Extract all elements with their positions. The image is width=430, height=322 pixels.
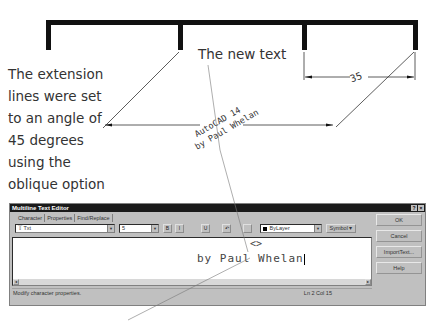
status-message: Modify character properties. bbox=[13, 290, 81, 296]
editor-line-1: <> bbox=[250, 238, 262, 249]
ok-button[interactable]: OK bbox=[376, 214, 422, 226]
help-question-icon[interactable]: ? bbox=[411, 205, 417, 211]
font-value: Txt bbox=[23, 225, 31, 231]
caption-line: oblique option bbox=[8, 173, 138, 195]
scroll-left-icon[interactable]: ◂ bbox=[13, 279, 19, 285]
text-edit-area[interactable]: <> by Paul Whelan ◂ ▸ bbox=[12, 237, 372, 286]
multiline-text-editor-dialog: Multiline Text Editor ? × Character Prop… bbox=[9, 203, 426, 306]
tab-find-replace[interactable]: Find/Replace bbox=[75, 214, 112, 222]
bold-button[interactable]: B bbox=[163, 224, 172, 233]
caption-line: 45 degrees bbox=[8, 129, 138, 151]
chevron-down-icon[interactable]: ▼ bbox=[314, 225, 321, 232]
scroll-right-icon[interactable]: ▸ bbox=[365, 279, 371, 285]
dialog-buttons: OK Cancel ImportText... Help bbox=[376, 214, 422, 278]
stack-button[interactable] bbox=[243, 224, 252, 233]
help-button[interactable]: Help bbox=[376, 262, 422, 274]
text-height-select[interactable]: 5 ▼ bbox=[119, 224, 159, 233]
caption-line: to an angle of bbox=[8, 107, 138, 129]
close-icon[interactable]: × bbox=[418, 205, 424, 211]
cursor-position: Ln 2 Col 15 bbox=[304, 289, 332, 297]
caption-line: using the bbox=[8, 151, 138, 173]
figure-caption: The extension lines were set to an angle… bbox=[8, 63, 138, 195]
horizontal-scrollbar[interactable]: ◂ ▸ bbox=[13, 279, 371, 285]
callout-label: The new text bbox=[198, 46, 286, 62]
chevron-down-icon: ▾ bbox=[349, 225, 352, 231]
truetype-icon: 𝕋 bbox=[18, 225, 22, 231]
color-value: ByLayer bbox=[270, 225, 290, 231]
tab-character[interactable]: Character bbox=[16, 214, 45, 222]
undo-button[interactable]: ↶ bbox=[222, 224, 231, 233]
font-select[interactable]: 𝕋 Txt ▼ bbox=[15, 224, 115, 233]
italic-button[interactable]: I bbox=[175, 224, 184, 233]
chevron-down-icon[interactable]: ▼ bbox=[107, 225, 114, 232]
color-swatch bbox=[263, 227, 267, 231]
dimension-35-label: 35 bbox=[348, 70, 363, 84]
editor-line-2: by Paul Whelan bbox=[197, 252, 305, 265]
character-toolbar: 𝕋 Txt ▼ 5 ▼ B I U ↶ ByLayer ▼ Symbol ▾ bbox=[15, 224, 355, 235]
dialog-title: Multiline Text Editor bbox=[12, 205, 69, 211]
editor-line-2-text: by Paul Whelan bbox=[197, 252, 304, 265]
import-text-button[interactable]: ImportText... bbox=[376, 246, 422, 258]
text-caret bbox=[304, 254, 305, 265]
status-bar: Modify character properties. Ln 2 Col 15 bbox=[12, 288, 372, 296]
tab-strip: Character Properties Find/Replace bbox=[16, 214, 113, 222]
color-select[interactable]: ByLayer ▼ bbox=[260, 224, 322, 233]
cancel-button[interactable]: Cancel bbox=[376, 230, 422, 242]
symbol-label: Symbol bbox=[330, 225, 348, 231]
caption-line: The extension bbox=[8, 63, 138, 85]
underline-button[interactable]: U bbox=[201, 224, 210, 233]
tab-properties[interactable]: Properties bbox=[45, 214, 75, 222]
symbol-button[interactable]: Symbol ▾ bbox=[326, 224, 356, 233]
height-value: 5 bbox=[122, 225, 125, 231]
dialog-titlebar[interactable]: Multiline Text Editor ? × bbox=[10, 204, 425, 212]
chevron-down-icon[interactable]: ▼ bbox=[151, 225, 158, 232]
caption-line: lines were set bbox=[8, 85, 138, 107]
